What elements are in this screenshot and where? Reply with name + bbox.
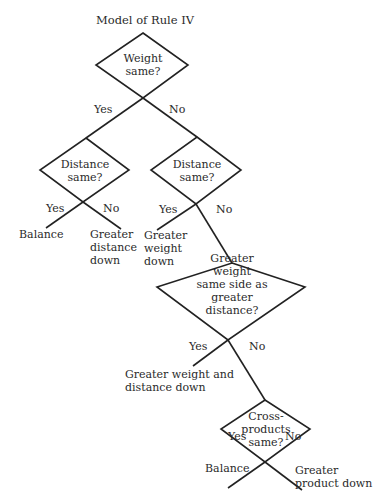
edge-label-yes: Yes: [228, 430, 246, 443]
outcome-greater-weight-down: Greater weight down: [144, 229, 187, 268]
node-label-distance-same-right: Distance same?: [173, 158, 222, 184]
diagram-title: Model of Rule IV: [96, 14, 194, 27]
node-label-weight-same: Weight same?: [124, 52, 163, 78]
node-label-cross-products-same: Cross- products same?: [241, 410, 290, 449]
outcome-greater-product-down: Greater product down: [295, 464, 372, 490]
edge-label-no: No: [103, 202, 119, 215]
edge-label-yes: Yes: [159, 203, 177, 216]
node-label-distance-same-left: Distance same?: [61, 158, 110, 184]
edge-label-no: No: [216, 203, 232, 216]
edge-label-no: No: [285, 430, 301, 443]
decision-tree-diagram: Model of Rule IV Weight same? Yes No Dis…: [0, 0, 391, 502]
diagram-lines: [0, 0, 391, 502]
edge-label-no: No: [169, 103, 185, 116]
edge-label-no: No: [249, 340, 265, 353]
outcome-balance: Balance: [205, 462, 249, 475]
edge-label-yes: Yes: [46, 202, 64, 215]
edge-label-yes: Yes: [94, 103, 112, 116]
edge-label-yes: Yes: [189, 340, 207, 353]
outcome-balance: Balance: [19, 228, 63, 241]
node-label-greater-weight-same-side: Greater weight same side as greater dist…: [196, 252, 267, 317]
outcome-greater-weight-and-distance-down: Greater weight and distance down: [125, 368, 234, 394]
outcome-greater-distance-down: Greater distance down: [90, 228, 137, 267]
